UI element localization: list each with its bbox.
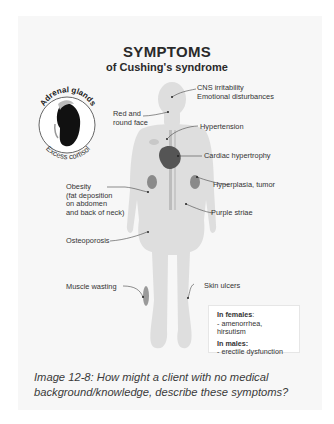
sex-specific-legend: In females: - amenorrhea, hirsutism In m… (208, 305, 300, 353)
label-hypertension: Hypertension (200, 123, 244, 132)
label-obesity: Obesity (fat deposition on abdomen and b… (66, 183, 124, 217)
image-caption: Image 12-8: How might a client with no m… (34, 370, 314, 399)
label-hyperplasia: Hyperplasia, tumor (213, 181, 275, 190)
label-face: Red and round face (113, 110, 148, 127)
label-striae: Purple striae (211, 209, 253, 218)
legend-females-heading: In females (217, 310, 252, 319)
legend-males-item: - erectile dysfunction (217, 348, 291, 357)
adrenal-gland-inset (39, 97, 95, 153)
legend-females-item: - amenorrhea, hirsutism (217, 320, 291, 337)
cushing-symptoms-figure: Adrenal glands Excess cortisol (0, 0, 334, 350)
label-muscle: Muscle wasting (66, 283, 117, 292)
label-osteoporosis: Osteoporosis (66, 237, 110, 246)
label-cns: CNS irritability Emotional disturbances (197, 84, 274, 101)
figure-title: SYMPTOMS (0, 43, 334, 60)
figure-subtitle: of Cushing's syndrome (0, 61, 334, 73)
label-skin: Skin ulcers (204, 282, 240, 291)
label-cardiac: Cardiac hypertrophy (204, 152, 271, 161)
